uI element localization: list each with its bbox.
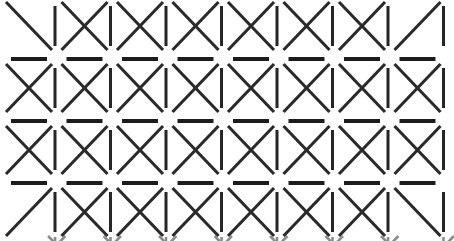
illusion-figure: Scintillating grid illusion pattern <box>0 0 454 241</box>
pattern-canvas <box>0 0 454 241</box>
